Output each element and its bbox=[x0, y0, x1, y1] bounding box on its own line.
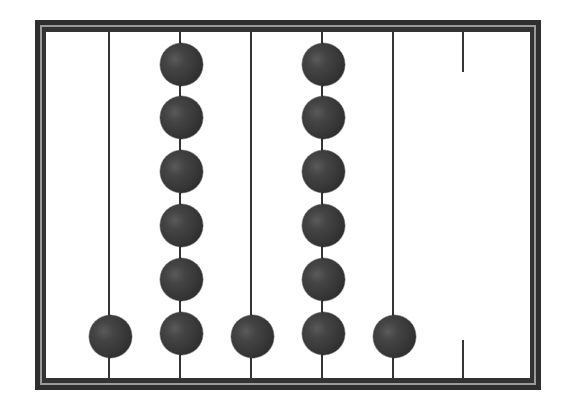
bead bbox=[302, 150, 345, 193]
bead bbox=[302, 43, 345, 86]
bead bbox=[302, 312, 345, 355]
bead bbox=[302, 258, 345, 301]
bead bbox=[160, 150, 203, 193]
bead bbox=[160, 204, 203, 247]
bead bbox=[231, 315, 274, 358]
bead bbox=[160, 43, 203, 86]
bead bbox=[373, 315, 416, 358]
bead bbox=[160, 96, 203, 139]
bead bbox=[302, 96, 345, 139]
rod-6-bottom-segment bbox=[462, 340, 464, 378]
bead bbox=[160, 312, 203, 355]
bead bbox=[89, 315, 132, 358]
bead bbox=[160, 258, 203, 301]
bead bbox=[302, 204, 345, 247]
rod-6-top-segment bbox=[462, 32, 464, 72]
